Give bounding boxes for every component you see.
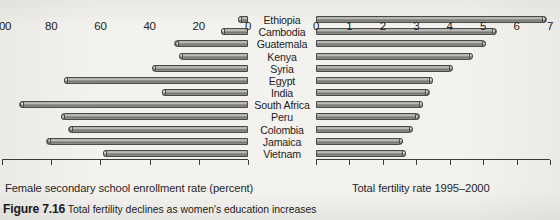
axis-tick-label: 2 [380,20,386,32]
category-label: Egypt [250,75,314,87]
axis-tick [100,160,101,165]
axis-tick-label: 1 [346,20,352,32]
axis-tick-label: 5 [480,20,486,32]
category-label: Syria [250,63,314,75]
axis-tick [483,160,484,165]
bar-right [316,28,497,35]
right-bar-group [316,14,550,160]
bar-row [2,63,248,75]
bar-right [316,138,403,145]
bar-left [174,40,248,47]
bar-end-cap [425,89,429,95]
axis-tick [248,160,249,165]
bar-end-cap [449,65,453,71]
bar-end-cap [419,101,423,107]
right-chart-panel: 01234567 [316,14,550,160]
figure-caption: Figure 7.16 Total fertility declines as … [3,203,557,216]
bar-left [61,113,248,120]
axis-tick [349,160,350,165]
left-bar-group [2,14,248,160]
figure-7-16: 100806040200 Female secondary school enr… [0,0,560,220]
axis-tick [383,160,384,165]
bar-right [316,113,420,120]
bar-right [316,77,433,84]
category-label: Vietnam [250,148,314,160]
figure-caption-text: Total fertility declines as women's educ… [68,204,317,215]
bar-end-cap [152,65,156,71]
bar-row [2,75,248,87]
axis-tick [199,160,200,165]
category-label: Peru [250,111,314,123]
bar-end-cap [103,150,107,156]
bar-row [2,111,248,123]
bar-row [2,14,248,26]
bar-row [2,26,248,38]
bar-right [316,150,406,157]
figure-number: Figure 7.16 [3,203,65,216]
bar-row [2,99,248,111]
bar-end-cap [469,53,473,59]
bar-right [316,40,486,47]
bar-row [316,136,550,148]
bar-row [316,63,550,75]
bar-row [316,87,550,99]
axis-tick-label: 20 [193,20,205,32]
bar-row [316,38,550,50]
category-label: South Africa [250,99,314,111]
bar-left [68,126,248,133]
category-label: Jamaica [250,136,314,148]
bar-left [179,53,248,60]
bar-left [152,65,248,72]
bar-end-cap [61,114,65,120]
bar-end-cap [179,53,183,59]
left-axis-line [2,159,248,160]
bar-end-cap [221,28,225,34]
axis-tick-label: 6 [513,20,519,32]
category-label: Cambodia [250,26,314,38]
bar-left [103,150,248,157]
bar-left [19,101,248,108]
right-axis-title: Total fertility rate 1995–2000 [352,182,490,194]
bar-end-cap [492,28,496,34]
bar-end-cap [415,114,419,120]
bar-right [316,126,413,133]
bar-row [316,99,550,111]
bar-right [316,101,423,108]
axis-tick [450,160,451,165]
axis-tick [51,160,52,165]
bar-right [316,89,430,96]
bar-row [2,38,248,50]
bar-row [316,124,550,136]
axis-tick [550,160,551,165]
axis-tick-label: 3 [413,20,419,32]
bar-right [316,53,473,60]
bar-end-cap [175,41,179,47]
axis-tick [316,160,317,165]
bar-end-cap [47,138,51,144]
category-label: Colombia [250,124,314,136]
category-label: Kenya [250,51,314,63]
left-chart-panel: 100806040200 [2,14,248,160]
bar-end-cap [402,150,406,156]
axis-tick-label: 4 [447,20,453,32]
axis-tick [150,160,151,165]
bar-row [316,111,550,123]
bar-end-cap [69,126,73,132]
axis-tick [517,160,518,165]
axis-tick-label: 100 [0,20,11,32]
right-axis-line [316,159,550,160]
bar-row [2,136,248,148]
bar-end-cap [20,101,24,107]
axis-tick-label: 7 [547,20,553,32]
bar-left [162,89,248,96]
bar-row [316,51,550,63]
bar-end-cap [409,126,413,132]
axis-tick [2,160,3,165]
category-label: Guatemala [250,38,314,50]
axis-tick [416,160,417,165]
axis-tick-label: 0 [313,20,319,32]
category-label: India [250,87,314,99]
bar-end-cap [429,77,433,83]
bar-row [2,87,248,99]
bar-row [2,124,248,136]
